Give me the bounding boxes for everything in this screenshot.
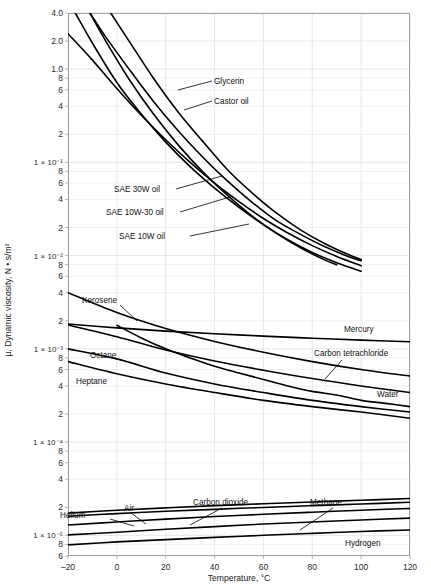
curve-label-water: Water bbox=[377, 390, 399, 399]
y-tick-label: 6 bbox=[58, 178, 63, 188]
y-tick-label: 8 bbox=[58, 166, 63, 176]
viscosity-chart: 4.02.01.086421 × 10⁻¹86421 × 10⁻²86421 ×… bbox=[0, 0, 431, 587]
x-tick-label: 60 bbox=[259, 562, 269, 572]
x-tick-label: –20 bbox=[61, 562, 75, 572]
y-tick-label: 4 bbox=[58, 381, 63, 391]
y-tick-label: 6 bbox=[58, 85, 63, 95]
curve-label-hydrogen: Hydrogen bbox=[345, 539, 381, 548]
y-tick-label: 6 bbox=[58, 271, 63, 281]
curve-label-carbon-dioxide: Carbon dioxide bbox=[193, 498, 249, 507]
y-tick-label: 4 bbox=[58, 101, 63, 111]
x-axis-title: Temperature, °C bbox=[208, 573, 271, 583]
x-tick-label: 100 bbox=[354, 562, 368, 572]
curve-label-castor-oil: Castor oil bbox=[214, 97, 249, 106]
y-tick-label: 2.0 bbox=[51, 36, 63, 46]
y-tick-label: 8 bbox=[58, 73, 63, 83]
y-tick-label: 2 bbox=[58, 409, 63, 419]
y-tick-label: 8 bbox=[58, 260, 63, 270]
x-tick-label: 80 bbox=[308, 562, 318, 572]
y-tick-label: 4.0 bbox=[51, 8, 63, 18]
x-tick-label: 40 bbox=[210, 562, 220, 572]
x-tick-label: 120 bbox=[403, 562, 417, 572]
curve-label-glycerin: Glycerin bbox=[214, 77, 244, 86]
curve-label-sae-30w-oil: SAE 30W oil bbox=[114, 185, 160, 194]
y-tick-label: 8 bbox=[58, 446, 63, 456]
curve-label-air: Air bbox=[124, 504, 134, 513]
curve-label-octane: Octane bbox=[90, 351, 117, 360]
curve-label-carbon-tetrachloride: Carbon tetrachloride bbox=[314, 349, 389, 358]
curve-label-methane: Methane bbox=[310, 498, 342, 507]
y-tick-label: 4 bbox=[58, 288, 63, 298]
y-tick-label: 2 bbox=[58, 316, 63, 326]
y-tick-label: 2 bbox=[58, 129, 63, 139]
y-tick-label: 6 bbox=[58, 365, 63, 375]
y-axis-title: μ, Dynamic viscosity, N • s/m² bbox=[3, 243, 13, 356]
y-tick-label: 8 bbox=[58, 353, 63, 363]
y-tick-label: 4 bbox=[58, 194, 63, 204]
curve-label-sae-10w-oil: SAE 10W oil bbox=[119, 232, 165, 241]
x-tick-label: 20 bbox=[161, 562, 171, 572]
curve-label-kerosene: Kerosene bbox=[82, 296, 117, 305]
curve-label-helium: Helium bbox=[60, 511, 86, 520]
y-tick-label: 8 bbox=[58, 539, 63, 549]
curve-label-sae-10w-30-oil: SAE 10W-30 oil bbox=[106, 208, 164, 217]
curve-label-heptane: Heptane bbox=[76, 377, 107, 386]
y-tick-label: 4 bbox=[58, 474, 63, 484]
curve-label-mercury: Mercury bbox=[344, 325, 374, 334]
y-tick-label: 2 bbox=[58, 223, 63, 233]
chart-canvas: 4.02.01.086421 × 10⁻¹86421 × 10⁻²86421 ×… bbox=[0, 0, 431, 587]
y-tick-label: 6 bbox=[58, 458, 63, 468]
x-tick-label: 0 bbox=[114, 562, 119, 572]
y-tick-label: 6 bbox=[58, 551, 63, 561]
